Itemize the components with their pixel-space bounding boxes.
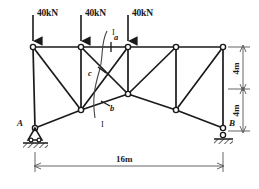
node-T2 bbox=[78, 44, 83, 49]
node-T5 bbox=[220, 44, 225, 49]
load-label-3: 40kN bbox=[132, 9, 153, 19]
dim-label-height-lower: 4m bbox=[232, 103, 241, 119]
dim-label-height-upper: 4m bbox=[232, 61, 241, 77]
node-B bbox=[220, 125, 225, 130]
bottom-chord-members bbox=[35, 94, 223, 128]
support-B-hatching bbox=[214, 139, 233, 144]
node-M2 bbox=[173, 107, 178, 112]
member-label-b: b bbox=[110, 104, 114, 113]
member-bottom-1 bbox=[35, 110, 81, 128]
node-T1 bbox=[30, 44, 35, 49]
dim-label-span: 16m bbox=[116, 155, 133, 164]
truss-diagram-figure: 40kN 40kN 40kN A B 4m 4m 16m I I a c b bbox=[0, 0, 259, 189]
support-B bbox=[214, 132, 233, 144]
support-A-roller-right bbox=[37, 138, 41, 142]
support-A-hatching bbox=[23, 143, 48, 148]
member-diag-1 bbox=[33, 47, 81, 110]
node-C bbox=[125, 91, 130, 96]
member-diag-5 bbox=[176, 47, 223, 110]
node-M1 bbox=[78, 107, 83, 112]
section-label-bottom: I bbox=[101, 120, 104, 129]
member-bottom-4 bbox=[176, 110, 223, 128]
member-diag-4 bbox=[128, 47, 176, 94]
member-label-c: c bbox=[88, 69, 92, 78]
node-T3 bbox=[125, 44, 130, 49]
support-A-roller-left bbox=[29, 138, 33, 142]
member-bottom-2 bbox=[81, 94, 128, 110]
member-diag-3 bbox=[81, 47, 128, 110]
load-label-1: 40kN bbox=[37, 9, 58, 19]
node-T4 bbox=[173, 44, 178, 49]
member-label-a: a bbox=[114, 33, 118, 42]
member-bottom-3 bbox=[128, 94, 176, 110]
load-label-2: 40kN bbox=[85, 9, 106, 19]
vertical-web-members bbox=[33, 47, 223, 128]
support-B-roller bbox=[220, 132, 225, 137]
support-label-A: A bbox=[17, 119, 23, 128]
member-vert-left-end bbox=[33, 47, 35, 128]
support-label-B: B bbox=[229, 119, 235, 128]
